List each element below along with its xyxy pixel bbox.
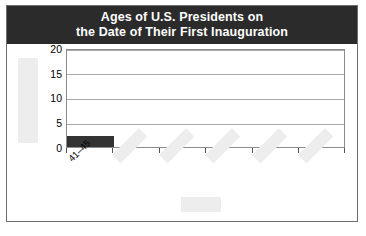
x-axis-tick (344, 148, 345, 153)
x-axis-title-placeholder (181, 197, 221, 212)
gridline-10 (67, 99, 344, 100)
x-axis-tick (66, 148, 67, 153)
y-axis-tick-label: 10 (40, 93, 62, 103)
gridline-15 (67, 74, 344, 75)
chart-figure: Ages of U.S. Presidents on the Date of T… (0, 0, 366, 236)
gridline-20 (67, 50, 344, 51)
plot-area (66, 49, 345, 148)
gridline-5 (67, 124, 344, 125)
y-axis-tick-labels: 20 15 10 5 0 (38, 0, 62, 236)
chart-title-line-1: Ages of U.S. Presidents on (101, 10, 263, 25)
y-axis-title-placeholder (18, 58, 38, 143)
y-axis-tick-label: 0 (40, 143, 62, 153)
y-axis-tick-label: 5 (40, 118, 62, 128)
chart-title-line-2: the Date of Their First Inauguration (76, 25, 288, 40)
y-axis-tick-label: 15 (40, 69, 62, 79)
y-axis-tick-label: 20 (40, 44, 62, 54)
